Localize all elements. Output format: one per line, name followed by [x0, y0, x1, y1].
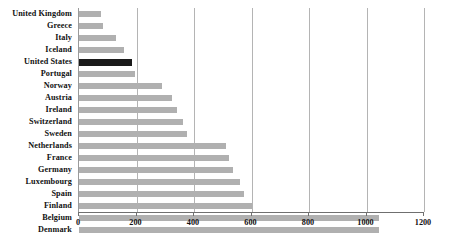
bar-row: [79, 176, 424, 188]
bar: [79, 227, 379, 234]
bar-row: [79, 140, 424, 152]
x-tick: [366, 212, 367, 216]
x-tick: [308, 212, 309, 216]
bar-row: [79, 188, 424, 200]
bar: [79, 71, 135, 78]
category-label: Iceland: [0, 44, 76, 56]
bar: [79, 83, 162, 90]
category-label: Belgium: [0, 212, 76, 224]
category-label: Sweden: [0, 128, 76, 140]
category-label: Austria: [0, 92, 76, 104]
category-label: Norway: [0, 80, 76, 92]
bar: [79, 155, 229, 162]
bar-row: [79, 152, 424, 164]
bar-row: [79, 104, 424, 116]
category-label: Portugal: [0, 68, 76, 80]
x-tick: [423, 212, 424, 216]
bar: [79, 95, 172, 102]
category-label: Switzerland: [0, 116, 76, 128]
category-label: Ireland: [0, 104, 76, 116]
x-tick: [78, 212, 79, 216]
bar-row: [79, 200, 424, 212]
category-label: Greece: [0, 20, 76, 32]
bar: [79, 35, 116, 42]
gridline: [424, 8, 425, 212]
category-label: Spain: [0, 188, 76, 200]
category-axis-labels: United KingdomGreeceItalyIcelandUnited S…: [0, 8, 76, 212]
x-tick-label: 800: [302, 218, 314, 227]
bar-row: [79, 56, 424, 68]
bar-row: [79, 80, 424, 92]
plot-area: [78, 8, 424, 212]
category-label: United States: [0, 56, 76, 68]
category-label: Luxembourg: [0, 176, 76, 188]
bar: [79, 215, 379, 222]
x-tick-label: 1200: [415, 218, 431, 227]
bar-row: [79, 128, 424, 140]
bar: [79, 203, 252, 210]
bar: [79, 131, 187, 138]
bar: [79, 143, 226, 150]
bar: [79, 11, 101, 18]
bar: [79, 107, 177, 114]
category-label: Netherlands: [0, 140, 76, 152]
bar-row: [79, 8, 424, 20]
x-tick-label: 400: [187, 218, 199, 227]
bar: [79, 23, 103, 30]
bar-highlighted: [79, 59, 132, 66]
x-tick: [251, 212, 252, 216]
bar-row: [79, 68, 424, 80]
bar-series: [79, 8, 424, 212]
bar: [79, 167, 233, 174]
category-label: France: [0, 152, 76, 164]
x-tick-label: 200: [129, 218, 141, 227]
bar: [79, 119, 183, 126]
category-label: Finland: [0, 200, 76, 212]
x-tick: [136, 212, 137, 216]
x-tick-label: 1000: [357, 218, 373, 227]
x-tick-label: 600: [244, 218, 256, 227]
category-label: Germany: [0, 164, 76, 176]
bar-row: [79, 92, 424, 104]
category-label: Italy: [0, 32, 76, 44]
x-tick: [193, 212, 194, 216]
category-label: United Kingdom: [0, 8, 76, 20]
bar-chart: United KingdomGreeceItalyIcelandUnited S…: [0, 0, 450, 244]
bar-row: [79, 116, 424, 128]
bar-row: [79, 32, 424, 44]
bar-row: [79, 164, 424, 176]
bar: [79, 179, 240, 186]
bar-row: [79, 44, 424, 56]
bar: [79, 191, 244, 198]
category-label: Denmark: [0, 224, 76, 236]
bar-row: [79, 20, 424, 32]
x-tick-label: 0: [76, 218, 80, 227]
bar: [79, 47, 124, 54]
